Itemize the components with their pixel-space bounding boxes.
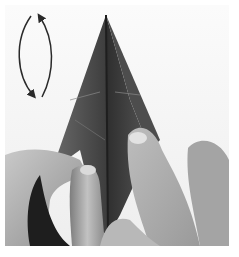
origami-photo (0, 0, 239, 257)
